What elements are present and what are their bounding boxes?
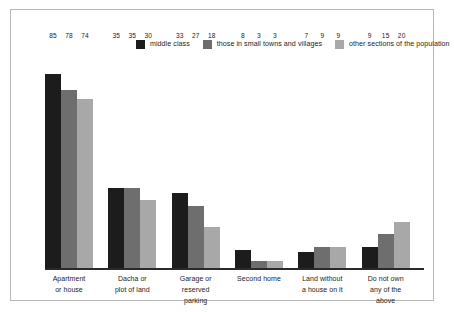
bar[interactable] (188, 206, 204, 268)
x-axis-label-line: or house (45, 285, 93, 296)
bar[interactable] (235, 250, 251, 268)
x-axis-label-line: Dacha or (108, 274, 156, 285)
x-axis-label-line: Second home (235, 274, 283, 285)
bar[interactable] (267, 261, 283, 268)
bar-column[interactable]: 74 (77, 40, 93, 268)
bar-value-label: 18 (208, 32, 216, 39)
bar-group: 91520 (362, 40, 425, 268)
bar-value-label: 27 (192, 32, 200, 39)
bar-column[interactable]: 27 (188, 40, 204, 268)
bar-column[interactable]: 30 (140, 40, 156, 268)
bar-group: 332718 (172, 40, 235, 268)
x-axis-label: Second home (235, 274, 298, 307)
bar-value-label: 9 (368, 32, 372, 39)
bar-column[interactable]: 78 (61, 40, 77, 268)
bar-column[interactable]: 15 (378, 40, 394, 268)
x-axis-label-line: plot of land (108, 285, 156, 296)
bar-column[interactable]: 20 (394, 40, 410, 268)
bar-value-label: 9 (336, 32, 340, 39)
bar-value-label: 35 (129, 32, 137, 39)
bar-value-label: 35 (113, 32, 121, 39)
x-axis-labels: Apartmentor houseDacha orplot of landGar… (45, 274, 425, 307)
x-axis-label: Dacha orplot of land (108, 274, 171, 307)
bar-column[interactable]: 9 (330, 40, 346, 268)
x-axis-label: Do not ownany of the above (362, 274, 425, 307)
bar[interactable] (394, 222, 410, 268)
bar-column[interactable]: 18 (204, 40, 220, 268)
bar-column[interactable]: 35 (124, 40, 140, 268)
bar[interactable] (140, 200, 156, 268)
bar[interactable] (108, 188, 124, 268)
bar-column[interactable]: 9 (362, 40, 378, 268)
chart-frame: middle classthose in small towns and vil… (10, 9, 434, 301)
bar-column[interactable]: 9 (314, 40, 330, 268)
bar-column[interactable]: 33 (172, 40, 188, 268)
bar[interactable] (362, 247, 378, 268)
bar-value-label: 7 (304, 32, 308, 39)
bar-value-label: 20 (398, 32, 406, 39)
bar-group: 799 (298, 40, 361, 268)
x-axis-label-line: Garage or (172, 274, 220, 285)
bar[interactable] (330, 247, 346, 268)
bar-value-label: 9 (320, 32, 324, 39)
bar-groups: 85787435353033271883379991520 (45, 40, 425, 268)
x-axis-label: Land withouta house on it (298, 274, 361, 307)
bar[interactable] (124, 188, 140, 268)
bar[interactable] (172, 193, 188, 268)
bar-column[interactable]: 35 (108, 40, 124, 268)
bar-value-label: 74 (81, 32, 89, 39)
bar[interactable] (298, 252, 314, 268)
bar-column[interactable]: 3 (251, 40, 267, 268)
x-axis-label-line: Apartment (45, 274, 93, 285)
bar[interactable] (45, 74, 61, 268)
bar-value-label: 85 (49, 32, 57, 39)
bar-value-label: 30 (145, 32, 153, 39)
bar[interactable] (204, 227, 220, 268)
bar-group: 833 (235, 40, 298, 268)
bar[interactable] (61, 90, 77, 268)
bar-value-label: 15 (382, 32, 390, 39)
bar-value-label: 78 (65, 32, 73, 39)
x-axis-label-line: Do not own (362, 274, 410, 285)
x-axis-label-line: reserved parking (172, 285, 220, 307)
x-axis-label: Apartmentor house (45, 274, 108, 307)
bar-column[interactable]: 85 (45, 40, 61, 268)
bar[interactable] (378, 234, 394, 268)
bar-group: 857874 (45, 40, 108, 268)
x-axis-label-line: a house on it (298, 285, 346, 296)
x-axis-line (45, 268, 424, 270)
bar-value-label: 3 (257, 32, 261, 39)
bar[interactable] (77, 99, 93, 268)
bar-value-label: 3 (273, 32, 277, 39)
bar[interactable] (314, 247, 330, 268)
x-axis-label-line: any of the above (362, 285, 410, 307)
bar-column[interactable]: 3 (267, 40, 283, 268)
bar-column[interactable]: 7 (298, 40, 314, 268)
bar-group: 353530 (108, 40, 171, 268)
bar-value-label: 8 (241, 32, 245, 39)
bar[interactable] (251, 261, 267, 268)
bar-column[interactable]: 8 (235, 40, 251, 268)
x-axis-label-line: Land without (298, 274, 346, 285)
bar-value-label: 33 (176, 32, 184, 39)
x-axis-label: Garage orreserved parking (172, 274, 235, 307)
